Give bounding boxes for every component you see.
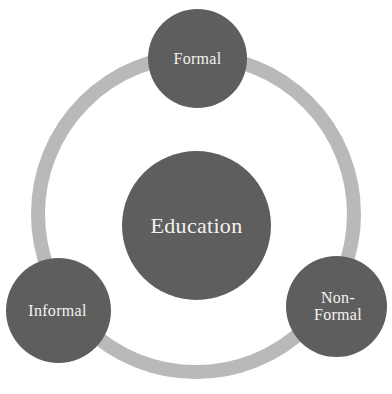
- node-non-formal[interactable]: Non- Formal: [286, 256, 387, 357]
- education-circle-diagram: Formal Education Informal Non- Formal: [0, 0, 392, 394]
- node-education-hub[interactable]: Education: [122, 151, 271, 300]
- node-non-formal-label: Non- Formal: [314, 290, 362, 324]
- node-education-label: Education: [151, 214, 243, 237]
- node-formal[interactable]: Formal: [148, 9, 247, 108]
- node-informal-label: Informal: [28, 303, 86, 320]
- node-informal[interactable]: Informal: [6, 258, 111, 363]
- node-formal-label: Formal: [173, 51, 221, 68]
